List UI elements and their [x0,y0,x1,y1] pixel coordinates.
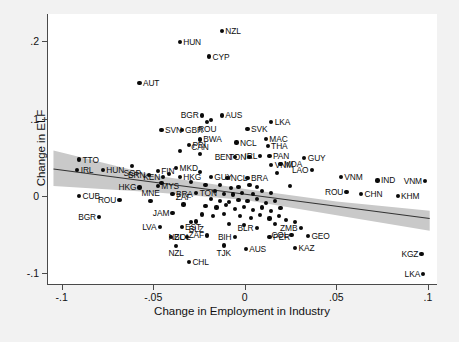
confidence-band-and-fit-line [48,14,437,284]
data-point-label: MKD [180,164,198,172]
data-point-label: KHM [401,192,419,200]
plot-area: NZLHUNCYPAUTBGRAUSLKAROUSVNGBRSVKBWAMACN… [48,14,437,284]
data-point-label: AUS [249,244,266,252]
y-tick-label: 0 [33,190,39,202]
data-point-label: JAM [153,209,169,217]
data-point-label: BIH [218,233,232,241]
data-point-label: ZAF [176,193,192,201]
data-point [101,168,105,172]
data-point-label: LKA [275,117,291,125]
data-point [264,201,268,205]
data-point [207,54,211,58]
data-point [203,183,207,187]
data-point [233,207,237,211]
data-point [225,176,229,180]
data-point [159,128,163,132]
data-point [273,222,277,226]
data-point [236,198,240,202]
y-axis-label: Change in ELF [35,68,47,228]
data-point [419,252,423,256]
x-axis-label: Change in Employment in Industry [47,305,437,317]
data-point [244,247,248,251]
data-point-label: BGR [181,111,199,119]
data-point-label: TTO [83,155,99,163]
data-point-label: AUS [225,111,242,119]
data-point [275,171,279,175]
data-point [205,233,209,237]
data-point-label: CAN [191,143,208,151]
data-point-label: AUT [143,79,159,87]
data-point [255,226,259,230]
data-point [255,197,259,201]
data-point [264,137,268,141]
data-point-label: PER [273,233,290,241]
data-point [218,199,222,203]
data-point [178,40,182,44]
data-point [211,214,215,218]
data-point [339,175,343,179]
data-point-label: HKG [118,183,136,191]
data-point [267,235,271,239]
data-point [200,113,204,117]
x-tick-label: -.1 [56,291,68,303]
y-tick-mark [42,41,47,42]
data-point-label: NZL [225,27,241,35]
data-point [187,260,191,264]
data-point-label: HUN [183,38,201,46]
data-point-label: KAZ [299,244,315,252]
data-point-label: SVK [251,125,267,133]
data-point [220,113,224,117]
y-tick-label: -.1 [27,267,39,279]
data-point [77,157,81,161]
data-point [299,226,303,230]
data-point-label: LKA [405,270,421,278]
data-point-label: BGR [78,213,96,221]
x-tick-label: -.05 [144,291,162,303]
data-point-label: KGZ [401,250,418,258]
data-point [180,225,184,229]
data-point-label: ROU [98,196,116,204]
data-point-label: IRL [81,165,94,173]
x-tick-mark [428,285,429,290]
data-point [159,181,163,185]
data-point-label: IRL [244,151,257,159]
data-point-label: GUY [308,154,326,162]
data-point [234,140,238,144]
data-point [117,198,121,202]
data-point [198,170,202,174]
data-point-label: LAO [292,166,308,174]
data-point [189,180,193,184]
data-point-label: MNE [141,189,159,197]
y-tick-label: .2 [30,35,39,47]
data-point [251,192,255,196]
data-point-label: VNM [344,172,362,180]
data-point [209,175,213,179]
data-point [181,202,185,206]
data-point [359,192,363,196]
data-point-label: BRA [251,174,268,182]
data-point [180,128,184,132]
scatter-plot-figure: NZLHUNCYPAUTBGRAUSLKAROUSVNGBRSVKBWAMACN… [0,0,459,342]
data-point-label: ROU [325,188,343,196]
data-point-label: NCL [240,138,256,146]
data-point [247,183,251,187]
data-point [231,192,235,196]
data-point [344,190,348,194]
x-tick-mark [153,285,154,290]
data-point [148,199,152,203]
data-point [158,225,162,229]
data-point-label: LVA [142,223,156,231]
x-tick-label: .05 [329,291,344,303]
data-point [178,149,182,153]
data-point [267,216,271,220]
x-tick-mark [336,285,337,290]
data-point [224,203,228,207]
x-tick-mark [245,285,246,290]
data-point [277,214,281,218]
data-point [273,199,277,203]
data-point [288,184,292,188]
data-point-label: IND [381,176,395,184]
data-point-label: CYP [213,52,230,60]
data-point [260,205,264,209]
y-tick-label: .1 [30,113,39,125]
